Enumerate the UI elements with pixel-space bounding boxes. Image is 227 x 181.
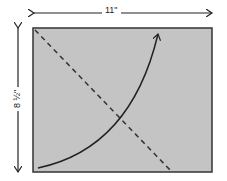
height-label: 8 ½" — [12, 87, 22, 111]
paper-diagram — [0, 0, 227, 181]
paper-sheet — [33, 28, 212, 172]
width-label: 11" — [102, 5, 121, 15]
